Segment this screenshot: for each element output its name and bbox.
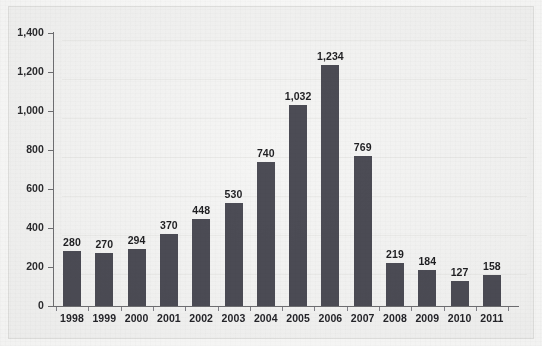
bar-value-label: 1,234 — [308, 50, 352, 62]
y-axis-tick-label: 0 — [0, 299, 44, 311]
x-axis-tick — [379, 307, 380, 311]
y-axis-line — [53, 32, 54, 307]
x-axis-tick — [347, 307, 348, 311]
bar — [451, 281, 469, 306]
gridline — [62, 40, 527, 41]
bar-value-label: 370 — [147, 219, 191, 231]
bar — [63, 251, 81, 306]
bar-value-label: 1,032 — [276, 90, 320, 102]
bar — [418, 270, 436, 306]
y-axis-tick-label: 1,400 — [0, 26, 44, 38]
bar — [95, 253, 113, 306]
y-axis-tick — [48, 189, 53, 190]
bar — [321, 65, 339, 306]
bar-value-label: 769 — [341, 141, 385, 153]
x-axis-tick — [314, 307, 315, 311]
bar — [354, 156, 372, 306]
bar — [128, 249, 146, 306]
y-axis-tick-label: 200 — [0, 260, 44, 272]
y-axis-tick — [48, 267, 53, 268]
bar — [289, 105, 307, 306]
y-axis-tick — [48, 33, 53, 34]
y-axis-tick — [48, 150, 53, 151]
bar — [386, 263, 404, 306]
bar-value-label: 740 — [244, 147, 288, 159]
x-axis-tick-label: 2011 — [470, 312, 514, 324]
y-axis-tick-label: 400 — [0, 221, 44, 233]
bar-value-label: 530 — [212, 188, 256, 200]
y-axis-tick — [48, 228, 53, 229]
y-axis-tick — [48, 72, 53, 73]
x-axis-tick — [121, 307, 122, 311]
y-axis-tick-label: 1,000 — [0, 104, 44, 116]
y-axis-tick-label: 1,200 — [0, 65, 44, 77]
bar — [160, 234, 178, 306]
x-axis-tick — [88, 307, 89, 311]
chart-page: 02004006008001,0001,2001,400 28027029437… — [0, 0, 542, 346]
x-axis-tick — [476, 307, 477, 311]
x-axis-tick — [411, 307, 412, 311]
x-axis-tick — [185, 307, 186, 311]
y-axis-tick-label: 600 — [0, 182, 44, 194]
y-axis-tick — [48, 111, 53, 112]
x-axis-tick — [508, 307, 509, 311]
x-axis-tick — [153, 307, 154, 311]
x-axis-tick — [444, 307, 445, 311]
x-axis-line — [53, 306, 519, 307]
bar-value-label: 294 — [115, 234, 159, 246]
y-axis-tick — [48, 306, 53, 307]
bar — [225, 203, 243, 306]
x-axis-tick — [218, 307, 219, 311]
bar — [257, 162, 275, 306]
bar — [192, 219, 210, 306]
bar-value-label: 448 — [179, 204, 223, 216]
gridline — [62, 79, 527, 80]
x-axis-tick — [250, 307, 251, 311]
x-axis-tick — [56, 307, 57, 311]
bar-value-label: 158 — [470, 260, 514, 272]
x-axis-tick — [282, 307, 283, 311]
bar — [483, 275, 501, 306]
y-axis-tick-label: 800 — [0, 143, 44, 155]
